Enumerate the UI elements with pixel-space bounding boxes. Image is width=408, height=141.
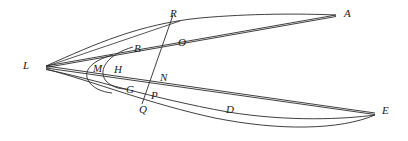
- point-label-H: H: [114, 64, 122, 75]
- line-L-through-Q-D-to-E: [46, 68, 375, 115]
- line-L-through-O-to-A: [46, 17, 336, 68]
- point-label-M: M: [93, 63, 102, 74]
- geometry-figure: A R O B L M H N G P Q D E: [0, 0, 408, 141]
- point-label-L: L: [23, 60, 29, 71]
- point-label-N: N: [160, 72, 167, 83]
- point-label-B: B: [134, 43, 141, 54]
- point-label-Q: Q: [139, 104, 147, 115]
- point-label-G: G: [126, 84, 134, 95]
- line-L-lower-companion: [46, 70, 375, 119]
- point-label-A: A: [344, 8, 351, 19]
- point-label-D: D: [226, 104, 234, 115]
- geometry-canvas: [0, 0, 408, 141]
- line-L-to-R: [46, 21, 180, 67]
- point-label-R: R: [170, 8, 177, 19]
- point-label-O: O: [178, 37, 186, 48]
- point-label-P: P: [151, 90, 158, 101]
- point-label-E: E: [382, 105, 389, 116]
- line-L-to-A: [46, 15, 336, 66]
